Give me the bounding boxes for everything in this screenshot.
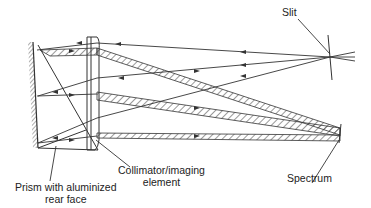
prism-label: Prism with aluminized rear face [15,181,117,205]
collimator-label-line1: Collimator/imaging [118,164,205,176]
prism-label-line1: Prism with aluminized [15,181,117,193]
prism-leader [50,146,56,181]
prism-mirror [28,42,38,148]
slit-leader [298,19,330,54]
spectrum-label: Spectrum [287,172,332,184]
slit-label: Slit [282,6,297,18]
prism-body [38,45,98,150]
collimator-label: Collimator/imaging element [118,164,205,188]
prism-label-line2: rear face [15,193,117,205]
collimator-leader [96,140,130,167]
collimator-label-line2: element [118,176,205,188]
